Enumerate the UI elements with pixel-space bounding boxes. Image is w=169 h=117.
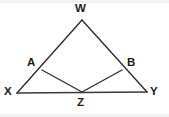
vertex-label-Y: Y bbox=[150, 85, 158, 97]
vertex-label-X: X bbox=[4, 85, 12, 97]
segment-AZ bbox=[42, 70, 82, 92]
geometry-figure: W A B X Y Z bbox=[0, 0, 169, 117]
segment-WY bbox=[82, 20, 147, 92]
vertex-label-W: W bbox=[75, 2, 86, 14]
triangle-diagram-canvas bbox=[0, 0, 169, 117]
vertex-label-B: B bbox=[127, 56, 135, 68]
vertex-label-A: A bbox=[27, 56, 35, 68]
vertex-label-Z: Z bbox=[77, 96, 84, 108]
segment-ZB bbox=[82, 70, 122, 92]
